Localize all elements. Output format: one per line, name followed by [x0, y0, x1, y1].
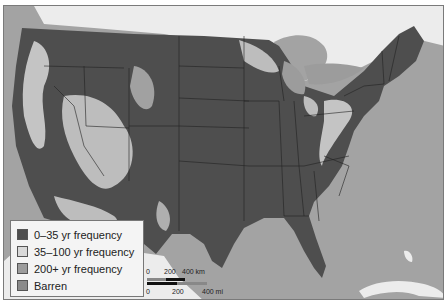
legend-item-barren: Barren — [17, 277, 137, 294]
scale-mi-200: 200 — [172, 288, 184, 295]
scale-km-bar-2 — [166, 278, 185, 281]
scale-km-0: 0 — [146, 268, 150, 275]
swatch-frequent — [17, 229, 28, 240]
scale-km-bar-1 — [147, 278, 166, 281]
fire-frequency-map: 0–35 yr frequency 35–100 yr frequency 20… — [3, 5, 444, 300]
scale-km-200: 200 — [164, 268, 176, 275]
swatch-moderate — [17, 246, 28, 257]
scale-mi-0: 0 — [146, 288, 150, 295]
scale-km-400: 400 km — [182, 268, 205, 275]
legend-label: 35–100 yr frequency — [34, 246, 134, 258]
legend-item-rare: 200+ yr frequency — [17, 260, 137, 277]
map-legend: 0–35 yr frequency 35–100 yr frequency 20… — [10, 220, 144, 297]
scale-bar: 0 200 400 km 0 200 400 mi — [144, 266, 254, 300]
legend-item-moderate: 35–100 yr frequency — [17, 243, 137, 260]
scale-mi-400: 400 mi — [202, 288, 223, 295]
swatch-barren — [17, 280, 28, 291]
scale-mi-bar-1 — [147, 282, 177, 285]
legend-label: Barren — [34, 280, 67, 292]
swatch-rare — [17, 263, 28, 274]
scale-mi-bar-2 — [177, 282, 207, 285]
legend-item-frequent: 0–35 yr frequency — [17, 226, 137, 243]
legend-label: 0–35 yr frequency — [34, 229, 122, 241]
legend-label: 200+ yr frequency — [34, 263, 122, 275]
